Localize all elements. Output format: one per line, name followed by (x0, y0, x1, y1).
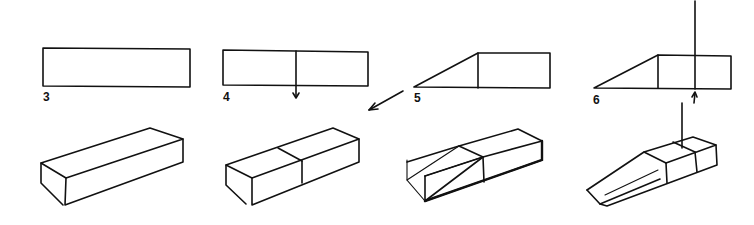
step-4-solid (226, 128, 359, 205)
step-label-3: 3 (43, 90, 50, 104)
front-vertical-1 (666, 163, 667, 183)
step-5-elevation: 5 (414, 53, 550, 105)
step-5-solid (407, 129, 542, 201)
step-4-elevation: 4 (223, 50, 368, 104)
wedge-diagonal-top (407, 146, 459, 180)
arrow-4-to-5 (369, 91, 403, 110)
step-3-solid (41, 128, 183, 205)
wedge-guide (425, 157, 483, 176)
step-6-elevation: 6 (593, 1, 731, 107)
front-vertical-2 (695, 152, 697, 172)
step-label-4: 4 (223, 90, 230, 104)
front-divider (483, 157, 484, 182)
front-base (587, 145, 717, 206)
wedge-outline (594, 55, 731, 89)
top-divider (673, 142, 695, 152)
top-front-edge (644, 152, 666, 163)
end-face (407, 160, 425, 201)
top-divider (278, 148, 302, 161)
step-label-6: 6 (593, 93, 600, 107)
wedge-diagonal-front (425, 157, 483, 201)
wedge-outline (414, 53, 550, 88)
connector-line (369, 91, 403, 110)
top-divider (459, 146, 483, 157)
rectangle-outline (43, 48, 190, 87)
step-6-solid (587, 103, 717, 206)
drawing-canvas: 3 4 5 6 (0, 0, 754, 225)
step-label-5: 5 (414, 91, 421, 105)
step-3-elevation: 3 (43, 48, 190, 104)
